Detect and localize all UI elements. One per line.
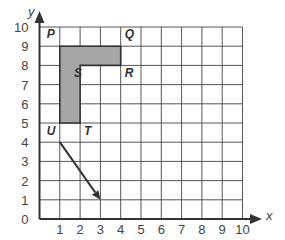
coordinate-grid: 12345678910012345678910 PQRSTU x y [0,0,285,240]
y-tick-label: 8 [21,58,28,73]
point-label-q: Q [125,27,135,41]
y-tick-label: 10 [14,20,28,35]
y-tick-label: 6 [21,97,28,112]
y-tick-label: 0 [21,212,28,227]
point-label-r: R [125,66,134,80]
point-label-s: S [74,66,82,80]
x-tick-label: 7 [178,222,185,237]
x-tick-label: 3 [97,222,104,237]
x-tick-label: 4 [117,222,124,237]
x-tick-label: 6 [158,222,165,237]
x-tick-label: 1 [56,222,63,237]
point-label-p: P [47,27,56,41]
point-label-t: T [84,124,93,138]
x-axis-label: x [265,208,273,223]
y-tick-label: 9 [21,39,28,54]
y-tick-label: 5 [21,116,28,131]
x-tick-label: 5 [137,222,144,237]
x-tick-label: 2 [76,222,83,237]
y-tick-label: 1 [21,193,28,208]
x-tick-label: 10 [235,222,249,237]
y-tick-label: 7 [21,78,28,93]
y-tick-label: 4 [21,135,28,150]
y-tick-label: 3 [21,154,28,169]
y-tick-label: 2 [21,174,28,189]
point-label-u: U [47,124,56,138]
x-tick-label: 8 [198,222,205,237]
y-axis-label: y [27,4,36,19]
x-tick-label: 9 [219,222,226,237]
